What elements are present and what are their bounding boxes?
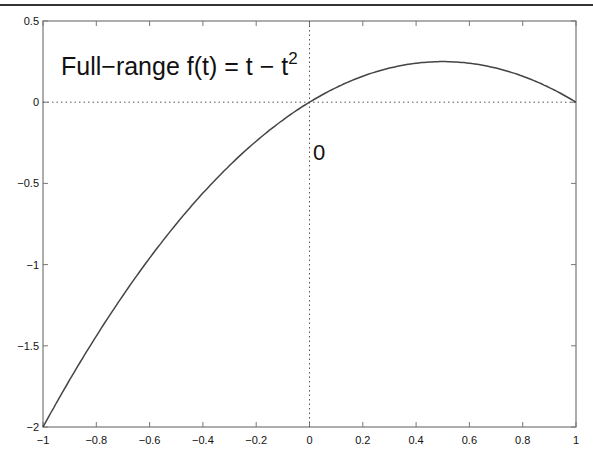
y-tick-label: 0 [33, 96, 39, 108]
y-tick-label: 0.5 [24, 15, 39, 27]
line-chart: −1−0.8−0.6−0.4−0.200.20.40.60.810.50−0.5… [0, 0, 593, 464]
x-tick-label: −0.2 [245, 434, 267, 446]
origin-label: 0 [313, 140, 325, 165]
y-tick-label: −1.5 [17, 340, 39, 352]
x-tick-label: 0 [306, 434, 312, 446]
x-tick-label: 0.2 [355, 434, 370, 446]
x-tick-label: −0.8 [85, 434, 107, 446]
x-tick-label: 1 [573, 434, 579, 446]
x-tick-label: −0.4 [192, 434, 214, 446]
y-tick-label: −0.5 [17, 177, 39, 189]
x-tick-label: 0.6 [462, 434, 477, 446]
x-tick-label: 0.4 [408, 434, 423, 446]
x-tick-label: −1 [37, 434, 50, 446]
y-tick-label: −1 [26, 259, 39, 271]
x-tick-label: −0.6 [139, 434, 161, 446]
y-tick-label: −2 [26, 421, 39, 433]
annotation-label: Full−range f(t) = t − t2 [61, 49, 298, 80]
x-tick-label: 0.8 [515, 434, 530, 446]
